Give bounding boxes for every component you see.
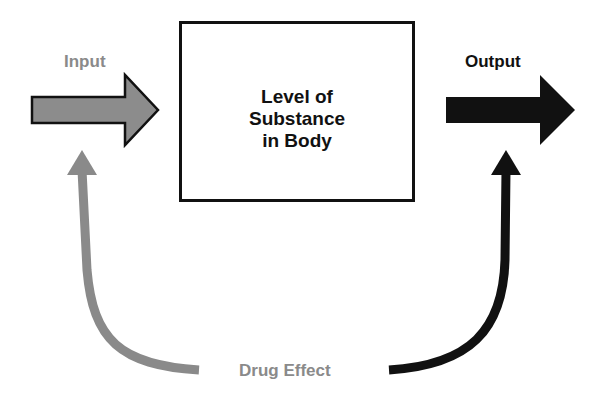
output-arrow-icon (446, 75, 575, 145)
box-line-2: Substance (182, 108, 412, 130)
drug-effect-label: Drug Effect (239, 361, 331, 381)
output-label: Output (465, 52, 521, 72)
box-line-3: in Body (182, 130, 412, 152)
box-line-1: Level of (182, 86, 412, 108)
substance-level-box: Level of Substance in Body (179, 21, 415, 202)
input-arrow-icon (32, 75, 158, 145)
box-text: Level of Substance in Body (182, 86, 412, 152)
feedback-right-arrowhead-icon (491, 150, 521, 175)
feedback-left-arrowhead-icon (67, 150, 97, 175)
input-label: Input (64, 52, 106, 72)
